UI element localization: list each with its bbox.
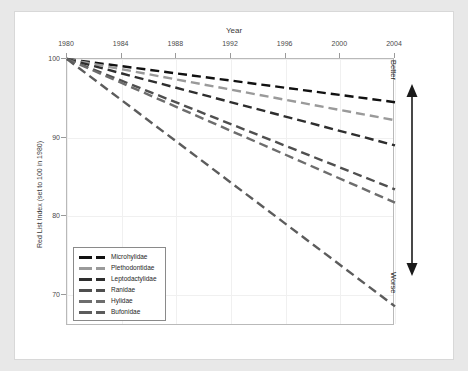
better-annotation: Better — [389, 60, 398, 100]
y-tick-label-80: 80 — [44, 212, 60, 219]
legend-item-label: Leptodactylidae — [111, 276, 157, 283]
legend-item-label: Microhylidae — [111, 254, 148, 261]
x-tick-label-2004: 2004 — [386, 40, 402, 47]
better-worse-arrow-icon — [405, 84, 419, 276]
legend-swatch-icon — [79, 256, 105, 259]
x-tick-label-1996: 1996 — [277, 40, 293, 47]
worse-annotation: Worse — [389, 272, 398, 316]
x-tick-label-1980: 1980 — [58, 40, 74, 47]
x-tick-label-1984: 1984 — [113, 40, 129, 47]
chart-canvas: Year 1980198419881992199620002004 100908… — [0, 0, 468, 371]
legend-swatch-icon — [79, 300, 105, 303]
series-line-leptodactylidae — [67, 59, 395, 145]
series-line-hylidae — [67, 59, 395, 203]
legend-swatch-icon — [79, 267, 105, 270]
series-line-ranidae — [67, 59, 395, 189]
y-tick-label-90: 90 — [44, 133, 60, 140]
legend-swatch-icon — [79, 289, 105, 292]
y-axis-title: Red List Index (set to 100 in 1980) — [36, 80, 43, 310]
legend-item-ranidae[interactable]: Ranidae — [79, 285, 160, 296]
legend: MicrohylidaePlethodontidaeLeptodactylida… — [73, 247, 166, 321]
x-axis-title: Year — [0, 26, 468, 35]
x-tick-label-1988: 1988 — [168, 40, 184, 47]
legend-item-microhylidae[interactable]: Microhylidae — [79, 252, 160, 263]
y-tick-label-70: 70 — [44, 290, 60, 297]
y-tick-label-100: 100 — [44, 55, 60, 62]
legend-swatch-icon — [79, 311, 105, 314]
legend-item-plethodontidae[interactable]: Plethodontidae — [79, 263, 160, 274]
legend-item-label: Plethodontidae — [111, 265, 154, 272]
legend-item-bufonidae[interactable]: Bufonidae — [79, 307, 160, 318]
x-tick-mark-2004 — [394, 53, 395, 58]
x-tick-label-2000: 2000 — [332, 40, 348, 47]
legend-item-label: Hylidae — [111, 298, 133, 305]
series-line-plethodontidae — [67, 59, 395, 120]
legend-item-label: Bufonidae — [111, 309, 140, 316]
legend-item-label: Ranidae — [111, 287, 135, 294]
legend-swatch-icon — [79, 278, 105, 281]
legend-item-hylidae[interactable]: Hylidae — [79, 296, 160, 307]
x-tick-label-1992: 1992 — [222, 40, 238, 47]
legend-item-leptodactylidae[interactable]: Leptodactylidae — [79, 274, 160, 285]
